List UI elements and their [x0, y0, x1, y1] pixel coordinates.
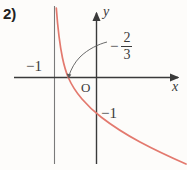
x-intercept-annotation: − 2 3: [110, 31, 132, 62]
coordinate-plot: [0, 0, 187, 170]
x-axis-label: x: [172, 80, 178, 94]
fraction-denominator: 3: [122, 47, 131, 62]
graph-figure: 2) y x O −1 −1 − 2 3: [0, 0, 187, 170]
x-asymptote-value-label: −1: [26, 59, 42, 74]
fraction-numerator: 2: [122, 31, 131, 46]
annotation-fraction: 2 3: [121, 31, 132, 62]
origin-label: O: [81, 81, 90, 94]
y-intercept-value-label: −1: [101, 106, 117, 121]
y-axis-label: y: [103, 5, 109, 19]
annotation-leader-line: [69, 42, 107, 76]
item-number-label: 2): [3, 6, 16, 21]
annotation-minus-sign: −: [110, 39, 119, 54]
